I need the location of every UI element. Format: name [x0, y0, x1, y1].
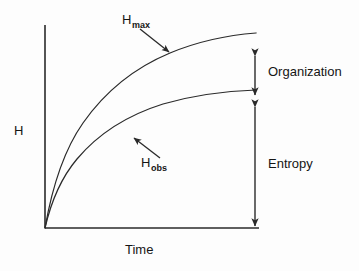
entropy-bracket-label: Entropy [268, 157, 313, 170]
hobs-label-subscript: obs [151, 163, 167, 173]
organization-bracket-label: Organization [268, 65, 342, 78]
hobs-label-base: H [141, 155, 150, 170]
curve-hmax [45, 33, 256, 228]
figure-canvas [0, 0, 359, 271]
hmax-label-base: H [122, 12, 131, 27]
entropy-organization-figure: H Time Hmax Hobs Organization Entropy [0, 0, 359, 271]
x-axis-title: Time [125, 243, 153, 256]
hobs-curve-label: Hobs [141, 156, 167, 173]
hmax-annotation-arrow [140, 29, 169, 52]
hmax-curve-label: Hmax [122, 13, 150, 30]
hmax-label-subscript: max [132, 20, 150, 30]
y-axis-title: H [14, 124, 23, 137]
